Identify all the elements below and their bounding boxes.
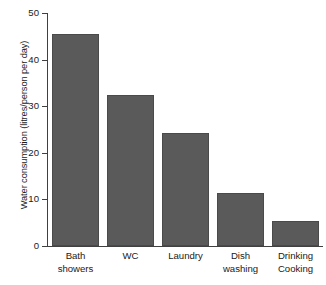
bar <box>272 221 318 246</box>
x-axis-tick-label: DrinkingCooking <box>268 250 323 275</box>
x-axis-tick-label-line: WC <box>103 250 158 263</box>
x-axis-tick-label-line: Laundry <box>158 250 213 263</box>
bar <box>217 193 263 246</box>
x-axis-tick-label: Dishwashing <box>213 250 268 275</box>
bar <box>162 133 208 246</box>
x-axis-labels: BathshowersWCLaundryDishwashingDrinkingC… <box>48 250 323 284</box>
x-axis-line <box>47 246 323 247</box>
y-axis-tick-label: 0 <box>0 241 39 251</box>
y-axis-tick-label: 40 <box>0 55 39 65</box>
x-axis-tick-label: WC <box>103 250 158 263</box>
x-axis-tick-label-line: showers <box>48 263 103 276</box>
y-axis-tick-label: 30 <box>0 101 39 111</box>
y-axis-title: Water consumption (litres/person per day… <box>16 1 32 249</box>
bar-chart: Water consumption (litres/person per day… <box>0 0 326 285</box>
y-axis-tick <box>42 246 48 247</box>
x-axis-tick-label-line: Drinking <box>268 250 323 263</box>
bar <box>52 34 98 246</box>
y-axis-tick-label: 10 <box>0 194 39 204</box>
x-axis-tick-label-line: Bath <box>48 250 103 263</box>
x-axis-tick-label-line: washing <box>213 263 268 276</box>
y-axis-tick-label: 50 <box>0 8 39 18</box>
x-axis-tick-label-line: Dish <box>213 250 268 263</box>
x-axis-tick-label: Bathshowers <box>48 250 103 275</box>
bar <box>107 95 153 246</box>
x-axis-tick-label-line: Cooking <box>268 263 323 276</box>
y-axis-tick-label: 20 <box>0 148 39 158</box>
x-axis-tick-label: Laundry <box>158 250 213 263</box>
bars-layer <box>48 13 323 246</box>
